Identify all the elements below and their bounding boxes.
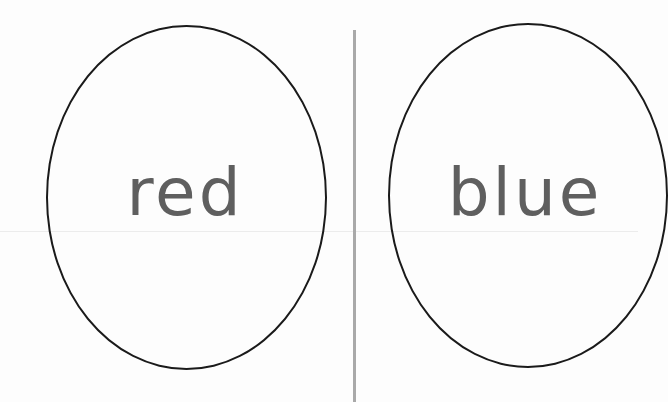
vertical-divider xyxy=(353,30,356,402)
left-color-word: red xyxy=(126,160,243,226)
right-color-word: blue xyxy=(448,160,603,226)
